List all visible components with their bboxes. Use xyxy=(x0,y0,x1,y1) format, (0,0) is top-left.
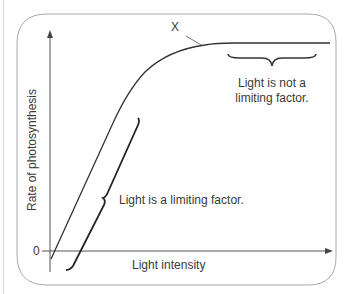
panel-border xyxy=(17,14,336,285)
y-axis-arrow-icon xyxy=(47,30,53,38)
not-limiting-label: Light is not a limiting factor. xyxy=(232,76,312,106)
y-axis-label: Rate of photosynthesis xyxy=(25,89,39,211)
point-x-leader xyxy=(186,36,203,46)
diagram-canvas xyxy=(0,0,347,294)
limiting-label: Light is a limiting factor. xyxy=(119,193,244,208)
zero-tick-label: 0 xyxy=(33,244,40,259)
point-x-label: X xyxy=(171,20,179,35)
not-limiting-line-1: Light is not a xyxy=(232,76,312,91)
x-axis-label: Light intensity xyxy=(132,258,205,273)
not-limiting-line-2: limiting factor. xyxy=(232,91,312,106)
plateau-brace xyxy=(228,54,316,66)
x-axis-arrow-icon xyxy=(325,248,333,254)
